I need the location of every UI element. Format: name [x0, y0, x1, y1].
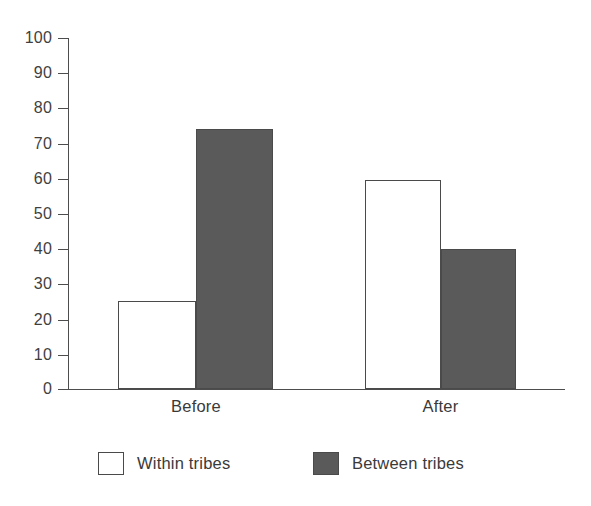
legend-label-within-tribes: Within tribes: [137, 453, 230, 473]
bar-chart: 100 90 80 70 60 50 40 30 20 10 0: [0, 0, 591, 506]
plot-area: 100 90 80 70 60 50 40 30 20 10 0: [0, 0, 591, 506]
y-tick-mark-90: [58, 73, 68, 74]
y-tick-label-80: 80: [0, 100, 52, 116]
y-tick-label-90: 90: [0, 65, 52, 81]
x-axis-label-after: After: [363, 396, 518, 416]
bar-after-within-tribes: [365, 180, 441, 389]
y-tick-label-30: 30: [0, 276, 52, 292]
x-axis-line: [68, 389, 565, 390]
y-tick-label-40: 40: [0, 241, 52, 257]
y-tick-label-20: 20: [0, 312, 52, 328]
y-tick-label-0: 0: [0, 381, 52, 397]
y-tick-mark-60: [58, 179, 68, 180]
y-tick-label-70: 70: [0, 136, 52, 152]
y-tick-label-50: 50: [0, 206, 52, 222]
legend: Within tribes Between tribes: [0, 450, 591, 490]
y-tick-label-10: 10: [0, 347, 52, 363]
y-tick-mark-100: [58, 38, 68, 39]
y-tick-mark-30: [58, 284, 68, 285]
y-tick-mark-70: [58, 144, 68, 145]
bar-before-between-tribes: [196, 129, 273, 389]
bar-after-between-tribes: [441, 249, 516, 389]
bar-before-within-tribes: [118, 301, 196, 389]
legend-item-within-tribes: Within tribes: [98, 450, 230, 476]
y-tick-label-60: 60: [0, 171, 52, 187]
legend-label-between-tribes: Between tribes: [352, 453, 464, 473]
y-tick-mark-40: [58, 249, 68, 250]
y-tick-mark-50: [58, 214, 68, 215]
y-tick-mark-80: [58, 108, 68, 109]
y-axis-line: [68, 38, 69, 390]
y-tick-mark-0: [58, 389, 68, 390]
y-tick-mark-20: [58, 320, 68, 321]
legend-item-between-tribes: Between tribes: [313, 450, 464, 476]
legend-swatch-within-tribes: [98, 452, 124, 475]
y-tick-label-100: 100: [0, 30, 52, 46]
legend-swatch-between-tribes: [313, 452, 339, 475]
y-tick-mark-10: [58, 355, 68, 356]
x-axis-label-before: Before: [116, 396, 276, 416]
